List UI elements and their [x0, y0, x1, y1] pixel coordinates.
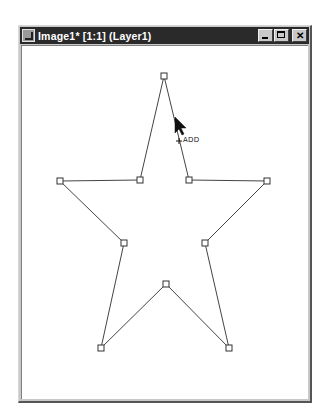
- close-icon: ✕: [296, 30, 304, 41]
- add-cursor-label: ADD: [183, 136, 199, 144]
- minimize-icon: [262, 37, 268, 39]
- image-document-icon[interactable]: [22, 29, 35, 42]
- title-bar[interactable]: Image1* [1:1] (Layer1) ✕: [20, 27, 309, 44]
- drawing-canvas[interactable]: [21, 45, 308, 399]
- close-button[interactable]: ✕: [292, 29, 307, 42]
- image-window[interactable]: Image1* [1:1] (Layer1) ✕: [18, 25, 312, 403]
- minimize-button[interactable]: [258, 29, 273, 42]
- maximize-icon: [277, 31, 285, 38]
- window-title: Image1* [1:1] (Layer1): [38, 30, 258, 42]
- maximize-button[interactable]: [274, 29, 289, 42]
